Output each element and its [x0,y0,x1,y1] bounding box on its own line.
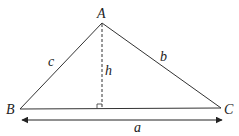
side-label-c: c [48,54,55,69]
side-label-b: b [160,49,167,64]
side-b [102,23,221,108]
side-a [20,108,221,109]
altitude-label-h: h [105,63,112,78]
side-label-a: a [134,120,141,135]
triangle-diagram: A B C c b h a [0,0,239,136]
right-angle-marker [97,104,102,109]
side-c [20,23,102,109]
vertex-label-a: A [96,6,106,21]
vertex-label-c: C [224,102,234,117]
vertex-label-b: B [6,102,15,117]
